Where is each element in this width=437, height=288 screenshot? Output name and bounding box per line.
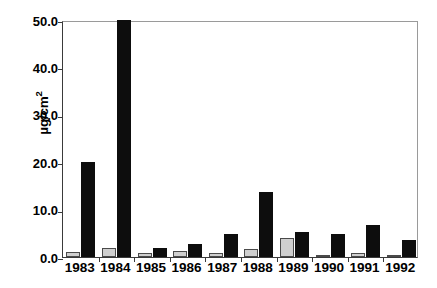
bar-control-1989 [280,238,294,257]
y-axis-tick-mark [58,69,63,70]
x-axis-tick-label: 1990 [311,261,347,275]
bar-fertilized-1989 [295,232,309,257]
plot-inner [63,22,417,257]
bar-control-1990 [316,255,330,257]
y-axis-tick-label: 50.0 [14,15,58,28]
bar-control-1988 [244,249,258,257]
bar-control-1986 [173,251,187,257]
x-axis-tick-label: 1984 [98,261,134,275]
y-axis-tick-label: 0.0 [14,252,58,265]
bar-fertilized-1983 [81,162,95,257]
x-axis-tick-label: 1989 [276,261,312,275]
bar-control-1987 [209,253,223,257]
bar-fertilized-1985 [153,248,167,257]
bar-control-1991 [351,253,365,257]
bar-control-1992 [387,255,401,257]
y-axis-tick-label: 30.0 [14,109,58,122]
x-axis-tick-label: 1987 [204,261,240,275]
bar-fertilized-1992 [402,240,416,257]
x-axis-tick-label: 1986 [169,261,205,275]
y-axis-tick-mark [58,212,63,213]
x-axis-tick-label: 1991 [347,261,383,275]
bar-control-1984 [102,248,116,257]
x-axis-tick-label: 1985 [133,261,169,275]
chart-figure: µg/cm2 0.010.020.030.040.050.0 Epilithic… [0,0,437,288]
y-axis-tick-mark [58,259,63,260]
x-axis-tick-label: 1983 [62,261,98,275]
bar-fertilized-1988 [259,192,273,257]
bar-fertilized-1986 [188,244,202,257]
y-axis-tick-label: 20.0 [14,157,58,170]
y-axis-tick-mark [58,117,63,118]
x-axis-tick-label: 1988 [240,261,276,275]
y-axis-tick-mark [58,22,63,23]
bar-fertilized-1984 [117,20,131,257]
plot-area [62,21,418,258]
bar-fertilized-1990 [331,234,345,257]
bar-fertilized-1991 [366,225,380,257]
y-axis-tick-label: 10.0 [14,204,58,217]
x-axis-tick-label: 1992 [382,261,418,275]
y-axis-tick-labels: 0.010.020.030.040.050.0 [10,0,58,288]
bar-control-1985 [138,253,152,257]
bar-control-1983 [66,252,80,257]
y-axis-tick-label: 40.0 [14,62,58,75]
bar-fertilized-1987 [224,234,238,257]
y-axis-tick-mark [58,164,63,165]
